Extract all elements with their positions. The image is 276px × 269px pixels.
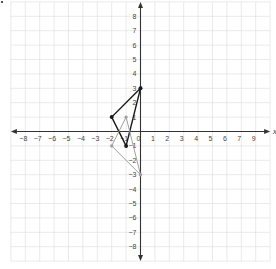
y-tick-label: −3 [129, 171, 137, 178]
x-tick-label: −2 [106, 135, 114, 142]
x-axis-label: x [272, 127, 276, 136]
x-tick-label: −7 [34, 135, 42, 142]
vertex-point [110, 144, 113, 147]
y-tick-label: −5 [129, 200, 137, 207]
vertex-point [124, 144, 128, 148]
vertex-point [110, 115, 114, 119]
y-tick-label: 7 [133, 27, 137, 34]
x-tick-label: 9 [252, 135, 256, 142]
coordinate-plane: −8−7−6−5−4−3−2−101234567987654321−1−2−3−… [0, 0, 276, 269]
vertex-point [124, 115, 127, 118]
x-tick-label: −3 [91, 135, 99, 142]
x-tick-label: −8 [19, 135, 27, 142]
x-axis-right-arrow-icon [264, 129, 270, 134]
x-tick-label: −5 [63, 135, 71, 142]
x-axis-left-arrow-icon [11, 129, 17, 134]
x-tick-label: 1 [151, 135, 155, 142]
x-tick-label: −6 [48, 135, 56, 142]
y-axis-up-arrow-icon [138, 2, 143, 8]
x-tick-label: 0 [137, 135, 141, 142]
x-tick-label: 7 [237, 135, 241, 142]
y-tick-label: −6 [129, 214, 137, 221]
vertex-point [139, 86, 143, 90]
x-tick-label: 6 [223, 135, 227, 142]
y-tick-label: 5 [133, 56, 137, 63]
vertex-point [139, 173, 142, 176]
x-tick-label: 3 [180, 135, 184, 142]
y-tick-label: 4 [133, 70, 137, 77]
y-tick-label: 6 [133, 42, 137, 49]
y-tick-label: −7 [129, 229, 137, 236]
x-tick-label: 4 [194, 135, 198, 142]
x-tick-label: 2 [165, 135, 169, 142]
y-tick-label: −4 [129, 186, 137, 193]
y-axis-down-arrow-icon [138, 255, 143, 261]
y-tick-label: −2 [129, 157, 137, 164]
axes [11, 2, 270, 261]
x-tick-label: −4 [77, 135, 85, 142]
y-tick-label: −8 [129, 243, 137, 250]
y-tick-label: 8 [133, 13, 137, 20]
y-tick-label: 3 [133, 85, 137, 92]
x-tick-label: 5 [209, 135, 213, 142]
